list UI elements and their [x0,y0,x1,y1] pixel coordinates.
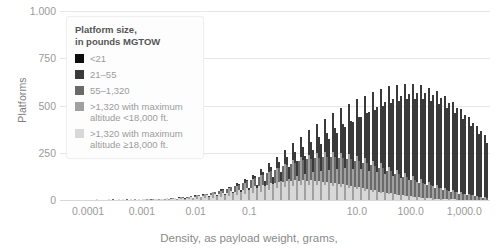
legend-item[interactable]: 21–55 [75,69,195,80]
bin-segment [408,94,410,180]
legend-label: >1,320 with maximumaltitude ≥18,000 ft. [90,128,183,150]
axis-baseline [60,200,490,201]
legend-label: >1,320 with maximumaltitude <18,000 ft. [90,101,183,123]
legend-swatch [75,86,84,95]
histogram-bin [424,93,426,200]
legend-label: <21 [90,53,106,64]
x-tick-label: 1,000.0 [447,205,482,217]
x-axis-title: Density, as payload weight, grams, [0,232,498,244]
histogram-bin [440,98,442,200]
bin-segment [286,157,288,165]
bin-segment [480,131,482,197]
legend-entries: <2121–5555–1,320>1,320 with maximumaltit… [75,53,195,150]
bin-segment [424,93,426,184]
x-tick-label: 0.0001 [72,205,104,217]
bin-segment [384,102,386,173]
x-tick-label: 0.01 [185,205,205,217]
bin-segment [416,93,418,182]
histogram-bin [456,108,458,200]
bin-segment [464,115,466,194]
x-tick-label: 0.1 [242,205,257,217]
legend-item[interactable]: <21 [75,53,195,64]
bin-segment [472,123,474,196]
legend: Platform size, in pounds MGTOW <2121–555… [66,16,204,159]
x-tick-label: 0.001 [129,205,155,217]
histogram-bin [432,95,434,200]
density-histogram-chart: Platforms 02505007501.000 0.00010.0010.0… [0,0,498,251]
legend-item[interactable]: 55–1,320 [75,85,195,96]
bin-segment [376,107,378,172]
legend-swatch [75,54,84,63]
histogram-bin [480,131,482,200]
histogram-bin [464,115,466,200]
legend-label-line2: altitude ≥18,000 ft. [90,139,183,150]
bin-segment [432,95,434,186]
histogram-bin [486,143,488,200]
legend-item[interactable]: >1,320 with maximumaltitude <18,000 ft. [75,101,195,123]
y-tick-label: 1.000 [12,6,56,16]
bin-segment [486,143,488,198]
y-tick-label: 0 [12,195,56,205]
histogram-bin [472,123,474,200]
bin-segment [456,108,458,192]
legend-swatch [75,70,84,79]
legend-label: 21–55 [90,69,116,80]
legend-label-line2: altitude <18,000 ft. [90,112,183,123]
bin-segment [368,112,370,171]
y-tick-label: 500 [12,101,56,111]
x-axis-ticks: 0.00010.0010.010.110.0100.01,000.0 [60,205,490,221]
legend-title-line1: Platform size, [75,24,195,36]
bin-segment [400,96,402,178]
legend-title-line2: in pounds MGTOW [75,36,195,48]
y-tick-label: 250 [12,148,56,158]
bin-segment [448,103,450,191]
legend-item[interactable]: >1,320 with maximumaltitude ≥18,000 ft. [75,128,195,150]
x-tick-label: 100.0 [397,205,423,217]
y-axis-ticks: 02505007501.000 [0,0,56,251]
legend-swatch [75,102,84,111]
bin-segment [440,98,442,188]
bin-segment [392,99,394,176]
y-tick-label: 750 [12,53,56,63]
bin-segment [360,117,362,170]
legend-swatch [75,129,84,138]
legend-label: 55–1,320 [90,85,130,96]
histogram-bin [448,103,450,200]
x-tick-label: 10.0 [347,205,367,217]
